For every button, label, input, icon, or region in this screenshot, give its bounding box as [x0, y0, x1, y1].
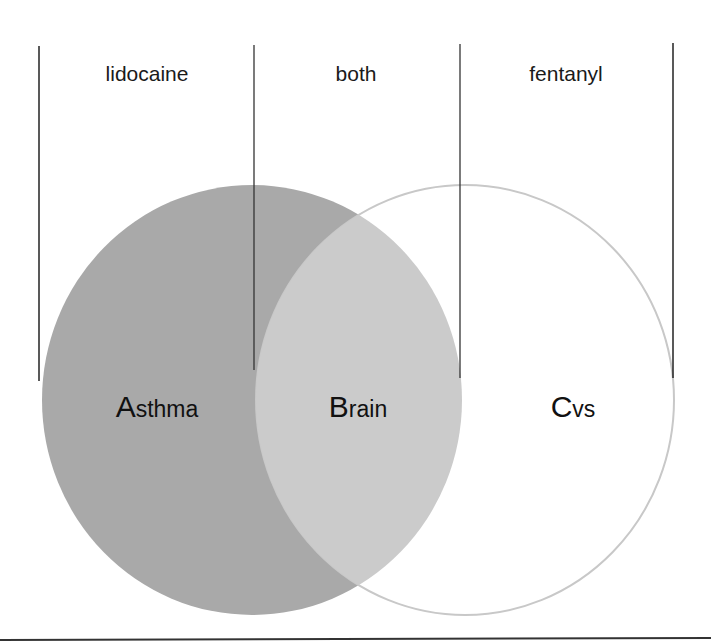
- set-initial: B: [329, 390, 349, 423]
- set-initial: C: [551, 390, 573, 423]
- set-initial: A: [116, 390, 136, 423]
- column-label-both: both: [336, 62, 377, 86]
- bottom-rule: [0, 638, 711, 640]
- column-label-lidocaine: lidocaine: [106, 62, 189, 86]
- set-label-asthma: Asthma: [116, 392, 199, 422]
- column-label-fentanyl: fentanyl: [529, 62, 603, 86]
- set-label-brain: Brain: [329, 392, 387, 422]
- set-name-rest: vs: [572, 396, 595, 422]
- venn-diagram: [0, 0, 711, 644]
- set-name-rest: sthma: [136, 396, 199, 422]
- set-name-rest: rain: [349, 396, 387, 422]
- set-label-cvs: Cvs: [551, 392, 596, 422]
